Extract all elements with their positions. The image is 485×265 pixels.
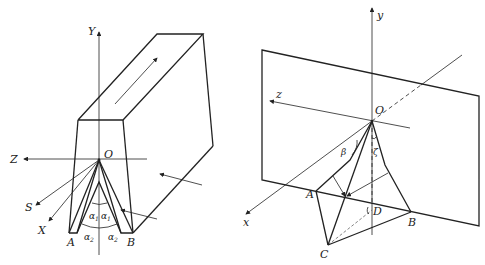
diagram-canvas: Y Z O S X A B α1 α1 α2 α2 bbox=[0, 0, 485, 265]
label-x-right: x bbox=[243, 216, 250, 229]
label-alpha2-right: α2 bbox=[108, 232, 118, 243]
label-A-left: A bbox=[66, 236, 75, 249]
edge-O-mid bbox=[345, 121, 372, 197]
label-beta: β bbox=[340, 147, 346, 157]
label-Z: Z bbox=[9, 153, 18, 166]
groove-outer bbox=[69, 160, 133, 233]
arrow-from-B-side bbox=[347, 173, 388, 196]
alpha2-arc bbox=[82, 224, 117, 228]
label-C: C bbox=[320, 248, 329, 261]
zeta-arc bbox=[372, 137, 376, 139]
label-y-right: y bbox=[376, 9, 384, 22]
label-O-right: O bbox=[375, 104, 384, 117]
label-O-left: O bbox=[104, 148, 113, 161]
alpha1-arc bbox=[92, 203, 107, 205]
label-alpha1-right: α1 bbox=[101, 211, 111, 222]
label-alpha2-left: α2 bbox=[84, 232, 94, 243]
flow-arrow-top bbox=[115, 58, 157, 104]
block-top-face bbox=[78, 34, 203, 120]
label-B-left: B bbox=[126, 236, 135, 249]
flow-arrow-side bbox=[160, 174, 202, 185]
edge-A-C bbox=[316, 191, 328, 245]
label-A-right: A bbox=[305, 188, 314, 201]
arrow-from-A-side bbox=[333, 176, 345, 196]
label-Y: Y bbox=[88, 25, 97, 38]
diag-axis-solid bbox=[421, 55, 462, 85]
z-axis-right bbox=[270, 101, 410, 128]
origin-dot-left bbox=[98, 159, 101, 162]
origin-dot-right bbox=[371, 120, 374, 123]
label-zeta: ζ bbox=[373, 147, 379, 157]
left-figure bbox=[69, 34, 213, 233]
label-D: D bbox=[372, 205, 382, 218]
label-z-right: z bbox=[275, 88, 282, 101]
label-alpha1-left: α1 bbox=[89, 211, 99, 222]
label-B-right: B bbox=[407, 216, 416, 229]
right-figure bbox=[246, 8, 479, 245]
edge-C-B bbox=[328, 212, 411, 245]
label-X: X bbox=[37, 224, 47, 237]
label-S: S bbox=[25, 201, 33, 214]
edge-O-B bbox=[372, 121, 411, 212]
block-back-edge bbox=[203, 34, 213, 146]
plane bbox=[262, 50, 479, 226]
